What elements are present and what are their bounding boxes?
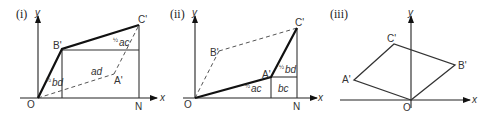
area-half-ac: ac	[251, 83, 262, 94]
point-b: B'	[53, 40, 62, 51]
area-half-bd: bd	[285, 64, 297, 75]
panel-label-iii: (iii)	[330, 7, 348, 21]
x-axis-label: x	[471, 94, 478, 105]
area-half-bd: bd	[52, 77, 64, 88]
x-axis-label: x	[317, 92, 324, 103]
point-o: O	[184, 99, 192, 110]
panel-i: (i) y x O B' C' A' N ½ bd ad ½ ac	[16, 7, 166, 112]
x-axis-label: x	[159, 92, 166, 103]
half-fraction: ½	[46, 77, 51, 83]
panel-label-ii: (ii)	[170, 7, 185, 21]
point-a: A'	[262, 69, 271, 80]
panel-iii: (iii) y x O A' C' B'	[330, 7, 478, 113]
point-a: A'	[342, 74, 351, 85]
parallelogram	[354, 44, 455, 100]
point-b: B'	[210, 47, 219, 58]
ob-dashed-line	[195, 51, 219, 98]
panel-label-i: (i)	[16, 7, 27, 21]
y-axis-label: y	[191, 7, 198, 18]
area-half-ac: ac	[119, 37, 130, 48]
half-fraction: ½	[279, 64, 284, 70]
point-o: O	[27, 99, 35, 110]
point-c: C'	[138, 14, 147, 25]
half-fraction: ½	[245, 83, 250, 89]
point-b: B'	[458, 60, 467, 71]
point-a: A'	[114, 75, 123, 86]
figure-canvas: (i) y x O B' C' A' N ½ bd ad ½ ac (ii) y…	[0, 0, 494, 116]
area-ad: ad	[91, 66, 103, 77]
half-fraction: ½	[113, 37, 118, 43]
point-n: N	[135, 101, 142, 112]
bc-dashed-line	[219, 28, 297, 51]
area-bc: bc	[278, 83, 289, 94]
point-o: O	[403, 102, 411, 113]
point-c: C'	[387, 33, 396, 44]
y-axis-label: y	[407, 7, 414, 18]
point-c: C'	[295, 17, 304, 28]
panel-ii: (ii) y x O B' C' A' N ½ ac bc ½ bd	[170, 7, 324, 112]
y-axis-label: y	[34, 7, 41, 18]
point-n: N	[293, 101, 300, 112]
